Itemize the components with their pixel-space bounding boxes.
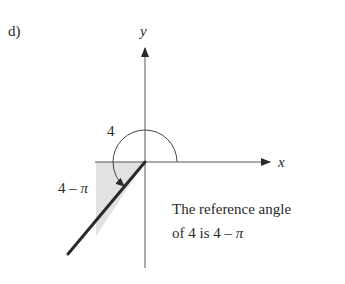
reference-angle-text: 4 – <box>58 180 81 196</box>
pi-symbol: π <box>81 180 89 196</box>
caption-line-2: of 4 is 4 – π <box>172 225 244 241</box>
angle-value-label: 4 <box>107 123 115 139</box>
caption-pi-symbol: π <box>236 225 244 241</box>
x-axis-label: x <box>277 154 285 170</box>
reference-angle-diagram: d) y x 4 4 – π The reference angle of 4 … <box>0 0 345 284</box>
caption-line-2-prefix: of 4 is 4 – <box>172 225 236 241</box>
reference-angle-label: 4 – π <box>58 180 89 196</box>
figure-label: d) <box>8 23 21 40</box>
caption-line-1: The reference angle <box>172 201 291 217</box>
y-axis-label: y <box>138 23 147 39</box>
